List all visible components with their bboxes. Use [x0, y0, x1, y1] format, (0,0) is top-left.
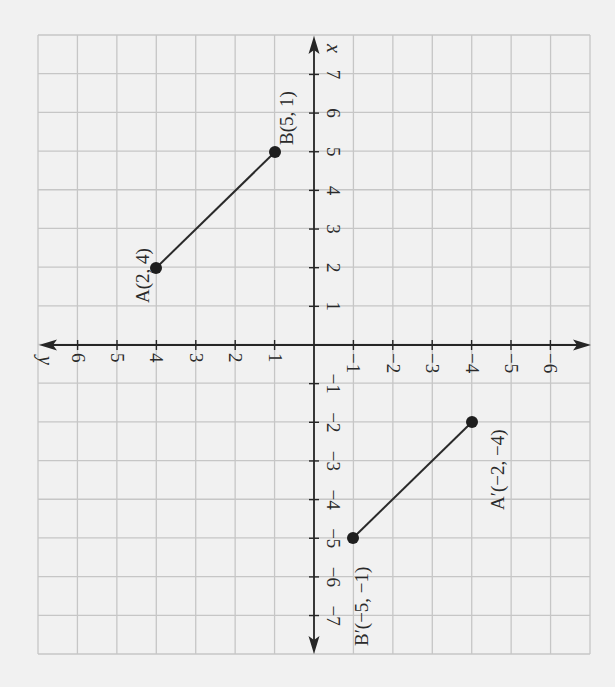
y-tick-label: −1	[343, 353, 364, 373]
axes	[39, 36, 591, 654]
y-tick-label: 3	[186, 353, 207, 363]
y-tick-label: 4	[146, 353, 167, 363]
x-tick-label: 6	[323, 108, 344, 118]
x-tick-label: 3	[323, 224, 344, 234]
y-tick-label: 6	[68, 353, 89, 363]
y-tick-label: 1	[265, 353, 286, 363]
x-tick-label: 2	[323, 263, 344, 273]
point-a-label: A(2, 4)	[132, 248, 154, 303]
x-tick-label: −4	[323, 489, 344, 510]
x-tick-label: −7	[323, 605, 344, 625]
x-tick-label: 4	[323, 186, 344, 196]
x-tick-label: −5	[323, 528, 344, 548]
x-tick-label: 5	[323, 147, 344, 157]
segment-a-prime-b-prime	[353, 422, 472, 538]
y-axis-label: y	[34, 354, 57, 365]
point-b-prime-label: B′(−5, −1)	[351, 567, 373, 646]
point-a-prime	[466, 416, 478, 428]
x-tick-label: −6	[323, 567, 344, 587]
coordinate-plane: −7−6−5−4−3−2−11234567−6−5−4−3−2−1123456 …	[0, 0, 615, 687]
x-tick-label: −3	[323, 451, 344, 471]
y-tick-label: −3	[422, 353, 443, 373]
y-tick-label: −2	[383, 353, 404, 373]
y-tick-label: 5	[107, 353, 128, 363]
x-tick-label: 7	[323, 70, 344, 80]
y-tick-label: 2	[225, 353, 246, 363]
point-b	[269, 146, 281, 158]
x-tick-label: −1	[323, 374, 344, 394]
segment-ab	[156, 152, 275, 268]
x-axis-label: x	[323, 43, 345, 53]
point-a-prime-label: A′(−2, −4)	[487, 430, 509, 510]
y-tick-label: −4	[462, 353, 483, 374]
y-tick-label: −5	[501, 353, 522, 373]
point-b-prime	[347, 532, 359, 544]
y-tick-label: −6	[540, 353, 561, 373]
x-tick-label: −2	[323, 412, 344, 432]
x-tick-label: 1	[323, 302, 344, 312]
point-b-label: B(5, 1)	[276, 91, 298, 145]
point-labels: A(2, 4) B(5, 1) A′(−2, −4) B′(−5, −1)	[132, 91, 509, 646]
